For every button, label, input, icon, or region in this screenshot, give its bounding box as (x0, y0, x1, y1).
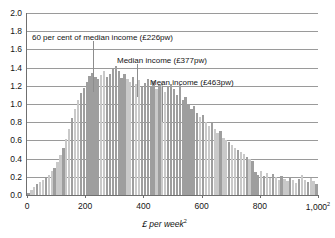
x-tick-mark (143, 195, 144, 198)
y-tick-label: 1.4 (0, 64, 22, 73)
y-tick-label: 0.2 (0, 173, 22, 182)
annotation-label-sixty-per-cent-median: 60 per cent of median income (£226pw) (32, 34, 173, 42)
annotation-label-median-income: Median income (£377pw) (117, 57, 207, 65)
annotation-label-mean-income: Mean income (£463pw) (150, 79, 234, 87)
x-tick-mark (202, 195, 203, 198)
x-axis-title-text: £ per week (142, 219, 184, 229)
y-tick-label: 0.4 (0, 155, 22, 164)
y-tick-label: 1.0 (0, 100, 22, 109)
y-tick-label: 1.2 (0, 82, 22, 91)
x-tick-label: 200 (55, 202, 115, 211)
y-tick-label: 1.6 (0, 45, 22, 54)
x-tick-label: 400 (113, 202, 173, 211)
plot-area: 60 per cent of median income (£226pw)Med… (27, 13, 318, 195)
x-tick-mark (318, 195, 319, 198)
y-tick-label: 0.0 (0, 191, 22, 200)
x-tick-label: 600 (172, 202, 232, 211)
y-tick-label: 2.0 (0, 9, 22, 18)
x-tick-label: 1,0002 (288, 202, 335, 211)
x-axis-title-footnote: 2 (184, 218, 187, 224)
x-tick-label: 800 (230, 202, 290, 211)
x-tick-mark (260, 195, 261, 198)
x-tick-mark (27, 195, 28, 198)
x-axis-title: £ per week2 (0, 218, 329, 229)
y-tick-label: 0.6 (0, 136, 22, 145)
y-tick-label: 1.8 (0, 27, 22, 36)
y-tick-label: 0.8 (0, 118, 22, 127)
x-tick-label: 0 (0, 202, 57, 211)
annotation-layer: 60 per cent of median income (£226pw)Med… (27, 13, 318, 195)
annotation-line-median-income (137, 64, 138, 97)
annotation-line-mean-income (162, 86, 163, 122)
annotation-line-sixty-per-cent-median (93, 41, 94, 92)
x-tick-mark (85, 195, 86, 198)
gridline-0.0 (27, 195, 318, 196)
